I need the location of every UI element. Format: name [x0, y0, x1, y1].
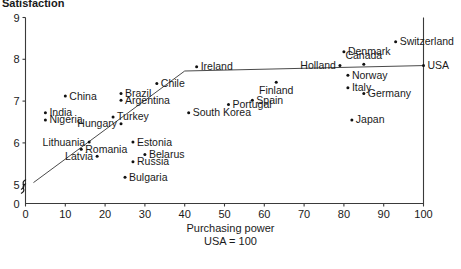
scatter-plot-figure: Satisfaction 0102030405060708090100 0567… [0, 0, 461, 269]
point-marker [112, 115, 115, 118]
data-point: Romania [80, 143, 128, 155]
x-tick-label: 40 [179, 208, 191, 220]
point-marker [155, 82, 158, 85]
x-axis-title-sub: USA = 100 [0, 235, 461, 248]
point-marker [394, 40, 397, 43]
x-tick-label: 50 [218, 208, 230, 220]
x-axis-ticks: 0102030405060708090100 [22, 204, 432, 220]
point-marker [64, 95, 67, 98]
point-label: Switzerland [400, 35, 454, 47]
point-marker [143, 153, 146, 156]
x-tick-label: 100 [414, 208, 432, 220]
x-tick-label: 90 [378, 208, 390, 220]
y-tick-label: 0 [13, 198, 19, 210]
point-marker [120, 92, 123, 95]
data-point: Bulgaria [124, 171, 168, 183]
point-marker [120, 122, 123, 125]
y-tick-label: 9 [13, 12, 19, 24]
data-points: IndiaNigeriaChinaLithuaniaLatviaRomaniaB… [43, 35, 455, 182]
point-marker [120, 99, 123, 102]
x-tick-label: 30 [139, 208, 151, 220]
point-marker [44, 111, 47, 114]
x-tick-label: 80 [338, 208, 350, 220]
x-tick-label: 70 [298, 208, 310, 220]
data-point: China [64, 90, 97, 102]
point-label: Chile [161, 77, 185, 89]
data-point: Belarus [143, 148, 184, 160]
point-label: Canada [345, 49, 382, 61]
point-label: Holland [300, 59, 336, 71]
point-label: Germany [368, 87, 412, 99]
y-tick-label: 7 [13, 95, 19, 107]
point-label: Lithuania [43, 136, 86, 148]
point-label: Turkey [117, 110, 149, 122]
point-label: Ireland [201, 60, 233, 72]
data-point: Finland [259, 81, 294, 97]
y-tick-label: 5 [13, 179, 19, 191]
data-point: Turkey [112, 110, 150, 122]
x-axis-title: Purchasing power USA = 100 [0, 222, 461, 248]
point-label: Japan [356, 113, 385, 125]
point-marker [362, 63, 365, 66]
point-marker [187, 111, 190, 114]
point-label: USA [428, 59, 450, 71]
point-marker [346, 74, 349, 77]
point-label: Finland [259, 84, 294, 96]
point-marker [124, 176, 127, 179]
point-marker [227, 103, 230, 106]
data-point: Ireland [195, 60, 233, 72]
point-marker [338, 64, 341, 67]
y-axis-ticks: 056789 [13, 12, 25, 210]
point-marker [44, 118, 47, 121]
point-label: Estonia [137, 136, 172, 148]
x-axis-title-main: Purchasing power [0, 222, 461, 235]
point-label: Norway [352, 69, 388, 81]
data-point: Germany [362, 87, 411, 99]
point-label: China [69, 90, 97, 102]
point-label: Hungary [77, 117, 117, 129]
x-tick-label: 10 [59, 208, 71, 220]
point-marker [346, 86, 349, 89]
data-point: Lithuania [43, 136, 91, 148]
data-point: Estonia [131, 136, 172, 148]
data-point: Argentina [120, 94, 171, 106]
point-label: Romania [85, 143, 127, 155]
point-marker [362, 92, 365, 95]
x-tick-label: 20 [99, 208, 111, 220]
data-point: Hungary [77, 117, 122, 129]
point-marker [350, 118, 353, 121]
x-tick-label: 60 [258, 208, 270, 220]
y-tick-label: 8 [13, 53, 19, 65]
data-point: Switzerland [394, 35, 454, 47]
point-label: Argentina [125, 94, 170, 106]
data-point: USA [422, 59, 449, 71]
point-label: Bulgaria [129, 171, 168, 183]
point-marker [131, 160, 134, 163]
x-tick-label: 0 [22, 208, 28, 220]
data-point: Japan [350, 113, 384, 125]
point-marker [80, 148, 83, 151]
data-point: Norway [346, 69, 388, 81]
point-marker [195, 65, 198, 68]
data-point: Chile [155, 77, 185, 89]
point-label: Belarus [149, 148, 185, 160]
point-marker [96, 155, 99, 158]
point-marker [251, 99, 254, 102]
point-marker [131, 141, 134, 144]
data-point: Canada [345, 49, 382, 66]
y-tick-label: 6 [13, 137, 19, 149]
point-marker [422, 64, 425, 67]
data-point: Holland [300, 59, 341, 71]
